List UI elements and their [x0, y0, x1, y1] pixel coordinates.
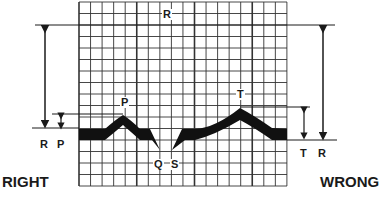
- wrong-caption: WRONG: [320, 174, 379, 189]
- right-caption: RIGHT: [2, 174, 49, 189]
- peak-p-label: P: [120, 97, 129, 108]
- peak-r-label: R: [162, 9, 172, 20]
- left-r-label: R: [40, 139, 48, 150]
- left-p-label: P: [57, 139, 64, 150]
- ecg-graphic: [0, 0, 391, 202]
- peak-t-label: T: [236, 89, 245, 100]
- peak-q-label: Q: [153, 159, 164, 170]
- grid: [79, 2, 287, 186]
- peak-s-label: S: [170, 159, 179, 170]
- right-t-label: T: [300, 148, 307, 159]
- right-r-label: R: [318, 148, 326, 159]
- ecg-diagram: R P T Q S R P T R RIGHT WRONG: [0, 0, 391, 202]
